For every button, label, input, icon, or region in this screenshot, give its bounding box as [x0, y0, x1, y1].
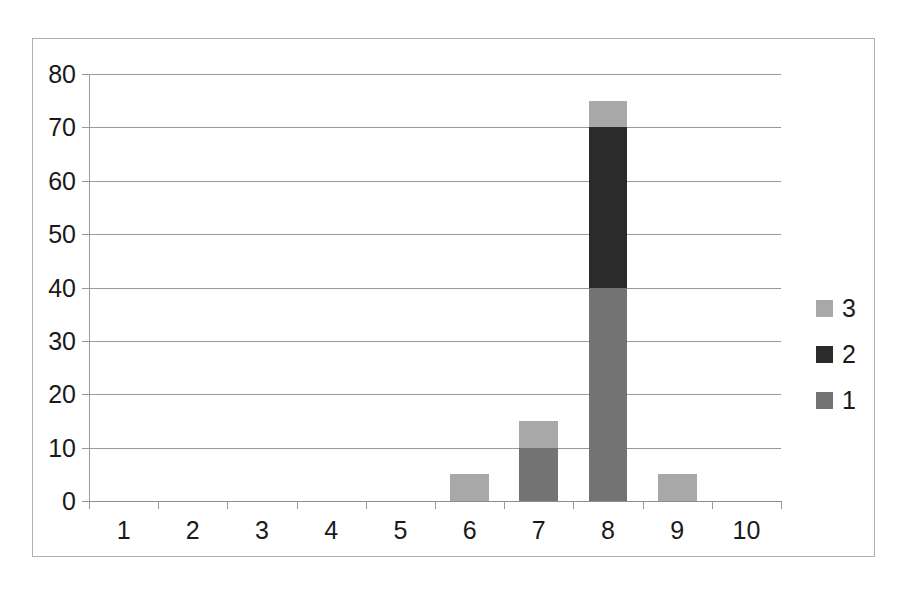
x-axis-tick: [297, 501, 298, 509]
y-axis-tick: [82, 288, 89, 289]
chart-legend: 321: [816, 285, 896, 423]
y-axis-tick-label: 70: [48, 115, 76, 140]
x-axis-tick-label: 2: [186, 518, 200, 543]
x-axis-tick: [89, 501, 90, 509]
x-axis-tick-label: 1: [117, 518, 131, 543]
legend-item-3[interactable]: 3: [816, 285, 896, 331]
x-axis-tick: [158, 501, 159, 509]
x-axis-tick: [227, 501, 228, 509]
gridline: [89, 448, 781, 449]
y-axis-tick: [82, 501, 89, 502]
x-axis-tick-label: 4: [324, 518, 338, 543]
x-axis-tick: [712, 501, 713, 509]
y-axis-tick-label: 50: [48, 222, 76, 247]
y-axis-tick-label: 80: [48, 62, 76, 87]
gridline: [89, 74, 781, 75]
y-axis-tick: [82, 234, 89, 235]
x-axis-tick: [435, 501, 436, 509]
y-axis-tick-label: 60: [48, 168, 76, 193]
y-axis-tick-label: 10: [48, 435, 76, 460]
legend-label: 2: [842, 342, 856, 367]
y-axis-tick-label: 0: [62, 489, 76, 514]
gridline: [89, 234, 781, 235]
y-axis-tick: [82, 181, 89, 182]
x-axis-tick-label: 8: [601, 518, 615, 543]
y-axis-tick: [82, 74, 89, 75]
x-axis-tick: [781, 501, 782, 509]
legend-item-2[interactable]: 2: [816, 331, 896, 377]
bar-segment-series-2[interactable]: [589, 127, 628, 287]
legend-swatch-icon: [816, 392, 833, 409]
legend-swatch-icon: [816, 346, 833, 363]
x-axis-tick: [573, 501, 574, 509]
bar-segment-series-3[interactable]: [450, 474, 489, 501]
x-axis-tick-label: 9: [670, 518, 684, 543]
x-axis-tick-label: 3: [255, 518, 269, 543]
y-axis-tick: [82, 127, 89, 128]
gridline: [89, 394, 781, 395]
bar-stack[interactable]: [519, 421, 558, 501]
y-axis-tick-label: 20: [48, 382, 76, 407]
x-axis-tick: [504, 501, 505, 509]
chart-frame: 01020304050607080 12345678910 321: [32, 38, 875, 557]
x-axis-tick-label: 5: [393, 518, 407, 543]
y-axis-tick-label: 30: [48, 328, 76, 353]
x-axis-tick-label: 10: [732, 518, 760, 543]
y-axis-tick: [82, 341, 89, 342]
legend-swatch-icon: [816, 300, 833, 317]
y-axis-tick-label: 40: [48, 275, 76, 300]
bar-stack[interactable]: [658, 474, 697, 501]
x-axis-tick-label: 7: [532, 518, 546, 543]
bar-segment-series-3[interactable]: [589, 101, 628, 128]
bar-stack[interactable]: [450, 474, 489, 501]
y-axis-tick: [82, 394, 89, 395]
legend-label: 1: [842, 388, 856, 413]
gridline: [89, 341, 781, 342]
gridline: [89, 127, 781, 128]
gridline: [89, 288, 781, 289]
x-axis-tick-label: 6: [463, 518, 477, 543]
plot-area: 01020304050607080 12345678910: [89, 74, 781, 501]
bar-segment-series-3[interactable]: [658, 474, 697, 501]
legend-item-1[interactable]: 1: [816, 377, 896, 423]
x-axis-tick: [366, 501, 367, 509]
bar-segment-series-1[interactable]: [589, 288, 628, 502]
legend-label: 3: [842, 296, 856, 321]
bar-segment-series-1[interactable]: [519, 448, 558, 501]
bar-stack[interactable]: [589, 101, 628, 501]
y-axis-tick: [82, 448, 89, 449]
bar-segment-series-3[interactable]: [519, 421, 558, 448]
x-axis-tick: [643, 501, 644, 509]
gridline: [89, 181, 781, 182]
